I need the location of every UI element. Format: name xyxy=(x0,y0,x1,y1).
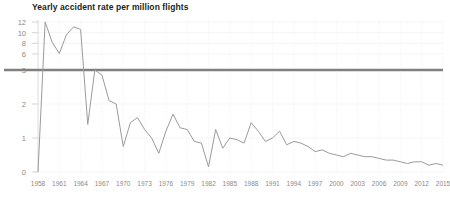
x-tick-label: 2012 xyxy=(414,180,428,187)
x-tick-label: 2009 xyxy=(393,180,407,187)
y-tick-label: 0 xyxy=(4,168,26,177)
x-tick-label: 1967 xyxy=(95,180,109,187)
x-tick-label: 1997 xyxy=(308,180,322,187)
y-tick-marks xyxy=(32,22,38,172)
x-tick-label: 1976 xyxy=(159,180,173,187)
y-tick-label: 12 xyxy=(4,18,26,27)
x-tick-label: 2006 xyxy=(372,180,386,187)
x-tick-label: 1973 xyxy=(137,180,151,187)
y-tick-label: 6 xyxy=(4,50,26,59)
x-tick-label: 2015 xyxy=(436,180,450,187)
x-tick-label: 2003 xyxy=(351,180,365,187)
y-tick-label: 2 xyxy=(4,100,26,109)
y-tick-label: 3 xyxy=(4,66,26,75)
x-tick-label: 1970 xyxy=(116,180,130,187)
x-tick-label: 1985 xyxy=(223,180,237,187)
x-tick-label: 2000 xyxy=(329,180,343,187)
x-tick-label: 1982 xyxy=(201,180,215,187)
y-tick-label: 10 xyxy=(4,28,26,37)
vertical-gridlines xyxy=(38,20,443,172)
x-tick-label: 1988 xyxy=(244,180,258,187)
x-tick-label: 1994 xyxy=(287,180,301,187)
y-tick-label: 1 xyxy=(4,134,26,143)
y-tick-label: 8 xyxy=(4,39,26,48)
horizontal-gridlines xyxy=(38,22,443,172)
x-tick-label: 1991 xyxy=(265,180,279,187)
data-series-line xyxy=(38,22,443,172)
x-tick-label: 1958 xyxy=(31,180,45,187)
x-tick-label: 1964 xyxy=(73,180,87,187)
x-tick-label: 1979 xyxy=(180,180,194,187)
x-tick-label: 1961 xyxy=(52,180,66,187)
